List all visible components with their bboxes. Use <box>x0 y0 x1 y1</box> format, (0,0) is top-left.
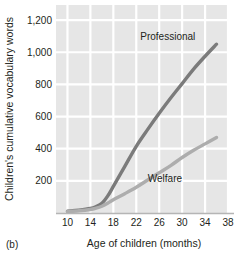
y-tick-label: 1,200 <box>27 15 52 26</box>
x-tick-label: 34 <box>200 217 212 228</box>
x-tick-label: 14 <box>85 217 97 228</box>
x-tick-label: 38 <box>222 217 234 228</box>
x-tick-label: 18 <box>108 217 120 228</box>
y-tick-label: 1,000 <box>27 47 52 58</box>
x-tick-label: 22 <box>131 217 143 228</box>
panel-label: (b) <box>6 239 18 250</box>
x-tick-label: 30 <box>177 217 189 228</box>
vocabulary-growth-chart: 2004006008001,0001,200 1014182226303438 … <box>0 0 240 257</box>
x-tick-label: 10 <box>62 217 74 228</box>
y-tick-label: 800 <box>35 79 52 90</box>
y-tick-label: 600 <box>35 111 52 122</box>
x-axis-title: Age of children (months) <box>87 237 201 249</box>
y-tick-label: 400 <box>35 143 52 154</box>
series-label-welfare: Welfare <box>148 173 183 184</box>
x-tick-label: 26 <box>154 217 166 228</box>
series-label-professional: Professional <box>140 31 195 42</box>
y-tick-label: 200 <box>35 175 52 186</box>
y-axis-title: Children's cumulative vocabulary words <box>3 17 15 201</box>
